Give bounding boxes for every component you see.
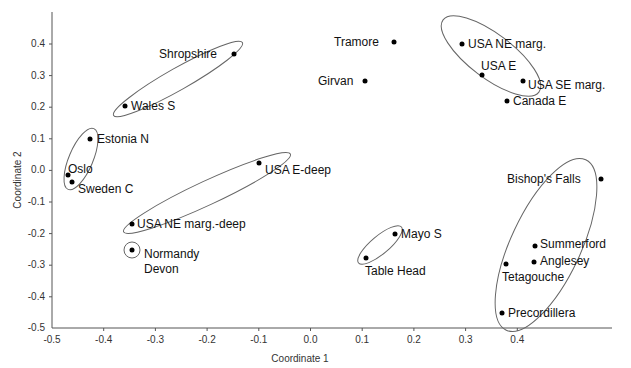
point-usa-ne-marg xyxy=(460,42,465,47)
point-shropshire xyxy=(232,52,237,57)
y-tick-label: 0.1 xyxy=(31,133,45,144)
x-tick-label: 0.3 xyxy=(459,334,473,345)
label-shropshire: Shropshire xyxy=(159,47,217,61)
x-axis-title: Coordinate 1 xyxy=(271,353,329,364)
point-usa-se-marg xyxy=(521,79,526,84)
label-precordillera: Precordillera xyxy=(508,306,576,320)
point-usa-e xyxy=(480,73,485,78)
point-normandy-devon xyxy=(130,248,135,253)
y-tick-label: -0.2 xyxy=(28,228,46,239)
point-estonia-n xyxy=(88,137,93,142)
label-usa-ne-marg-deep: USA NE marg.-deep xyxy=(137,217,246,231)
y-tick-label: -0.1 xyxy=(28,196,46,207)
ellipse-mayo-table xyxy=(353,220,407,270)
label-tramore: Tramore xyxy=(334,35,379,49)
label-table-head: Table Head xyxy=(365,264,426,278)
label-devon: Devon xyxy=(144,262,179,276)
point-bishops-falls xyxy=(599,177,604,182)
y-axis-title: Coordinate 2 xyxy=(12,151,23,209)
x-tick-label: -0.5 xyxy=(43,334,61,345)
x-tick-label: -0.3 xyxy=(147,334,165,345)
x-tick-label: -0.2 xyxy=(198,334,216,345)
point-canada-e xyxy=(505,99,510,104)
label-usa-e-deep: USA E-deep xyxy=(265,163,331,177)
label-sweden-c: Sweden C xyxy=(78,182,134,196)
label-girvan: Girvan xyxy=(318,74,353,88)
label-canada-e: Canada E xyxy=(513,94,566,108)
point-girvan xyxy=(363,79,368,84)
label-usa-ne-marg: USA NE marg. xyxy=(468,37,546,51)
x-tick-label: -0.4 xyxy=(95,334,113,345)
x-axis-tick-labels: -0.5 -0.4 -0.3 -0.2 -0.1 0.0 0.1 0.2 0.3… xyxy=(43,334,524,345)
x-tick-label: -0.1 xyxy=(250,334,268,345)
label-anglesey: Anglesey xyxy=(540,254,589,268)
y-tick-label: -0.3 xyxy=(28,259,46,270)
label-usa-se-marg: USA SE marg. xyxy=(528,78,605,92)
y-tick-label: 0.4 xyxy=(31,38,45,49)
y-tick-label: -0.4 xyxy=(28,291,46,302)
point-usa-e-deep xyxy=(257,161,262,166)
point-anglesey xyxy=(532,260,537,265)
y-tick-label: 0.0 xyxy=(31,164,45,175)
y-tick-label: -0.5 xyxy=(28,322,46,333)
y-tick-label: 0.2 xyxy=(31,101,45,112)
point-labels: Shropshire Wales S Estonia N Oslo Sweden… xyxy=(68,35,606,320)
point-mayo-s xyxy=(393,232,398,237)
point-sweden-c xyxy=(70,180,75,185)
point-usa-ne-marg-deep xyxy=(130,222,135,227)
scatter-chart: 0.4 0.3 0.2 0.1 0.0 -0.1 -0.2 -0.3 -0.4 … xyxy=(0,0,631,368)
label-wales-s: Wales S xyxy=(131,99,175,113)
point-wales-s xyxy=(123,104,128,109)
label-normandy: Normandy xyxy=(144,247,199,261)
label-mayo-s: Mayo S xyxy=(401,227,442,241)
y-axis-tick-labels: 0.4 0.3 0.2 0.1 0.0 -0.1 -0.2 -0.3 -0.4 … xyxy=(28,38,46,333)
x-tick-label: 0.0 xyxy=(304,334,318,345)
label-oslo: Oslo xyxy=(68,162,93,176)
label-estonia-n: Estonia N xyxy=(97,132,149,146)
y-tick-label: 0.3 xyxy=(31,70,45,81)
label-tetagouche: Tetagouche xyxy=(502,270,564,284)
label-summerford: Summerford xyxy=(540,237,606,251)
x-tick-label: 0.4 xyxy=(510,334,524,345)
point-tramore xyxy=(392,40,397,45)
x-tick-label: 0.1 xyxy=(355,334,369,345)
point-table-head xyxy=(364,256,369,261)
point-precordillera xyxy=(500,311,505,316)
point-summerford xyxy=(533,244,538,249)
point-tetagouche xyxy=(504,262,509,267)
label-bishops-falls: Bishop's Falls xyxy=(507,172,581,186)
x-tick-label: 0.2 xyxy=(407,334,421,345)
label-usa-e: USA E xyxy=(481,59,516,73)
